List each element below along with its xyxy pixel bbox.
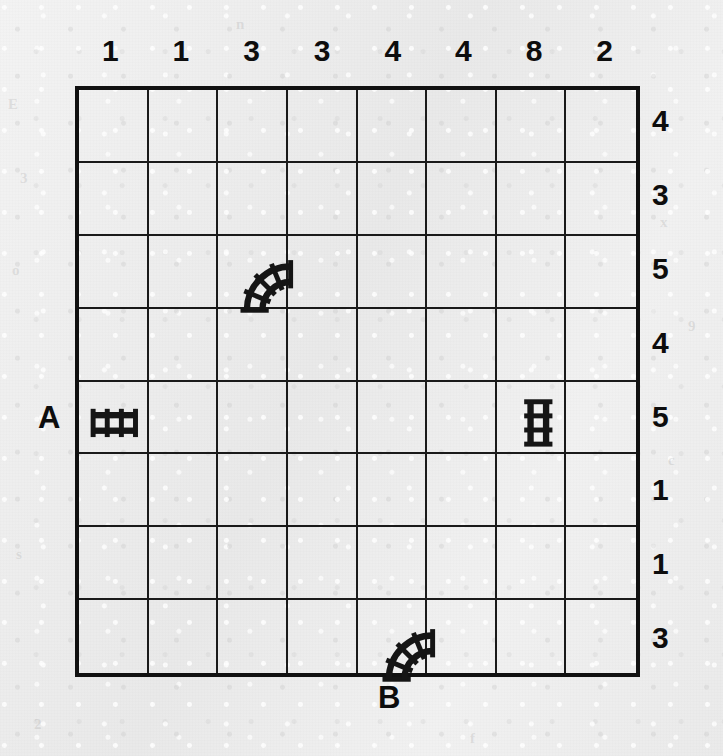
column-clue-3: 3 xyxy=(217,34,287,68)
column-clue-1: 1 xyxy=(75,34,145,68)
row-clue-3: 5 xyxy=(652,234,692,304)
grid-cell-r1c8[interactable] xyxy=(566,90,636,163)
grid-cell-r1c7[interactable] xyxy=(497,90,567,163)
grid-cell-r5c4[interactable] xyxy=(288,382,358,455)
grid-cell-r3c1[interactable] xyxy=(79,236,149,309)
grid-cell-r6c6[interactable] xyxy=(427,454,497,527)
grid-cell-r8c4[interactable] xyxy=(288,600,358,673)
straight-track-icon xyxy=(503,386,574,460)
grid-cell-r1c1[interactable] xyxy=(79,90,149,163)
grid-cell-r6c2[interactable] xyxy=(149,454,219,527)
grid-cell-r3c8[interactable] xyxy=(566,236,636,309)
ghost-mark: s xyxy=(16,546,22,563)
train-tracks-puzzle: E3ox9cs2fn 11334482 43545113 A B xyxy=(0,0,723,756)
ghost-mark: f xyxy=(470,730,475,747)
grid-cell-r6c1[interactable] xyxy=(79,454,149,527)
grid-cell-r8c1[interactable] xyxy=(79,600,149,673)
column-clue-2: 1 xyxy=(146,34,216,68)
ghost-mark: o xyxy=(12,262,20,279)
grid-cell-r3c5[interactable] xyxy=(358,236,428,309)
grid-cell-r2c3[interactable] xyxy=(218,163,288,236)
column-clue-7: 8 xyxy=(499,34,569,68)
grid-cell-r1c6[interactable] xyxy=(427,90,497,163)
grid-cell-r1c2[interactable] xyxy=(149,90,219,163)
column-clue-5: 4 xyxy=(358,34,428,68)
grid-cell-r2c5[interactable] xyxy=(358,163,428,236)
row-clue-8: 3 xyxy=(652,603,692,673)
row-clue-7: 1 xyxy=(652,529,692,599)
grid-cell-r8c7[interactable] xyxy=(497,600,567,673)
grid-cell-r5c2[interactable] xyxy=(149,382,219,455)
grid-cell-r6c3[interactable] xyxy=(218,454,288,527)
curve-track-icon xyxy=(220,238,291,312)
row-clue-6: 1 xyxy=(652,455,692,525)
straight-track-icon xyxy=(79,386,150,460)
track-piece-straight-r5c1 xyxy=(79,386,150,460)
grid-cell-r7c6[interactable] xyxy=(427,527,497,600)
grid-cell-r7c2[interactable] xyxy=(149,527,219,600)
grid-cell-r1c5[interactable] xyxy=(358,90,428,163)
grid-cell-r1c3[interactable] xyxy=(218,90,288,163)
grid-cell-r3c4[interactable] xyxy=(288,236,358,309)
entry-label-a: A xyxy=(38,400,60,436)
grid-cell-r4c3[interactable] xyxy=(218,309,288,382)
grid-cell-r2c1[interactable] xyxy=(79,163,149,236)
column-clue-4: 3 xyxy=(287,34,357,68)
grid-cell-r7c7[interactable] xyxy=(497,527,567,600)
entry-label-b: B xyxy=(378,680,400,716)
grid-cell-r3c2[interactable] xyxy=(149,236,219,309)
grid-cells xyxy=(79,90,636,673)
grid-cell-r5c5[interactable] xyxy=(358,382,428,455)
grid-cell-r8c2[interactable] xyxy=(149,600,219,673)
grid-cell-r8c6[interactable] xyxy=(427,600,497,673)
grid-cell-r4c6[interactable] xyxy=(427,309,497,382)
grid-cell-r5c3[interactable] xyxy=(218,382,288,455)
grid-cell-r4c8[interactable] xyxy=(566,309,636,382)
track-piece-curve-r3c3 xyxy=(220,238,291,312)
grid-cell-r2c7[interactable] xyxy=(497,163,567,236)
column-clue-6: 4 xyxy=(428,34,498,68)
grid-cell-r5c6[interactable] xyxy=(427,382,497,455)
grid-cell-r6c8[interactable] xyxy=(566,454,636,527)
grid-cell-r7c5[interactable] xyxy=(358,527,428,600)
grid-cell-r6c4[interactable] xyxy=(288,454,358,527)
grid-cell-r8c8[interactable] xyxy=(566,600,636,673)
grid-cell-r4c7[interactable] xyxy=(497,309,567,382)
grid-cell-r6c7[interactable] xyxy=(497,454,567,527)
track-piece-curve-r8c5 xyxy=(362,607,433,681)
grid-cell-r6c5[interactable] xyxy=(358,454,428,527)
row-clue-2: 3 xyxy=(652,160,692,230)
grid-cell-r7c1[interactable] xyxy=(79,527,149,600)
column-clue-8: 2 xyxy=(570,34,640,68)
grid-cell-r3c7[interactable] xyxy=(497,236,567,309)
ghost-mark: 2 xyxy=(34,716,42,733)
ghost-mark: 3 xyxy=(20,170,28,187)
row-clue-5: 5 xyxy=(652,382,692,452)
grid-cell-r2c6[interactable] xyxy=(427,163,497,236)
curve-track-icon xyxy=(362,607,433,681)
grid-cell-r3c6[interactable] xyxy=(427,236,497,309)
ghost-mark: n xyxy=(236,16,244,33)
row-clue-4: 4 xyxy=(652,308,692,378)
grid-cell-r2c2[interactable] xyxy=(149,163,219,236)
grid-cell-r4c5[interactable] xyxy=(358,309,428,382)
grid-cell-r7c8[interactable] xyxy=(566,527,636,600)
ghost-mark: E xyxy=(8,96,18,113)
grid-cell-r5c8[interactable] xyxy=(566,382,636,455)
grid-cell-r7c4[interactable] xyxy=(288,527,358,600)
grid-cell-r4c4[interactable] xyxy=(288,309,358,382)
puzzle-grid xyxy=(75,86,640,677)
grid-cell-r2c8[interactable] xyxy=(566,163,636,236)
grid-cell-r4c1[interactable] xyxy=(79,309,149,382)
track-piece-straight-r5c7 xyxy=(503,386,574,460)
grid-cell-r4c2[interactable] xyxy=(149,309,219,382)
grid-cell-r2c4[interactable] xyxy=(288,163,358,236)
row-clue-1: 4 xyxy=(652,86,692,156)
grid-cell-r1c4[interactable] xyxy=(288,90,358,163)
grid-cell-r8c3[interactable] xyxy=(218,600,288,673)
grid-cell-r7c3[interactable] xyxy=(218,527,288,600)
